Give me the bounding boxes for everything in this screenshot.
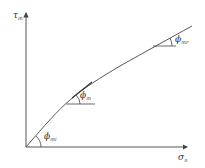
angle-label-residual: ϕmr: [175, 35, 188, 45]
failure-envelope-curve: [26, 26, 192, 147]
angle-arc-initial: [36, 136, 41, 147]
x-axis-subscript: n: [184, 157, 187, 163]
phi-subscript: m: [86, 95, 91, 101]
diagram-graphics: [0, 0, 205, 168]
angle-arc-residual: [170, 38, 172, 46]
y-axis-label: τm: [13, 11, 23, 21]
phi-subscript: mi: [50, 136, 56, 142]
angle-label-initial: ϕmi: [44, 132, 56, 142]
y-axis-subscript: m: [18, 15, 23, 21]
phi-subscript: mr: [181, 39, 188, 45]
x-axis-label: σn: [178, 153, 187, 163]
angle-label-middle: ϕm: [80, 91, 91, 101]
shear-strength-envelope-diagram: τm σn ϕmi ϕm ϕmr: [0, 0, 205, 168]
